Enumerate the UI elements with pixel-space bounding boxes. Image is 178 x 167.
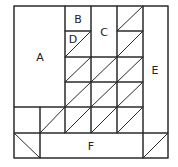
label-b: B (74, 13, 82, 26)
label-e: E (152, 64, 159, 77)
label-a: A (36, 51, 44, 64)
label-f: F (88, 140, 94, 153)
label-c: C (100, 26, 108, 39)
label-d: D (69, 33, 77, 46)
quilt-diagram: A B C D E F (0, 0, 178, 167)
